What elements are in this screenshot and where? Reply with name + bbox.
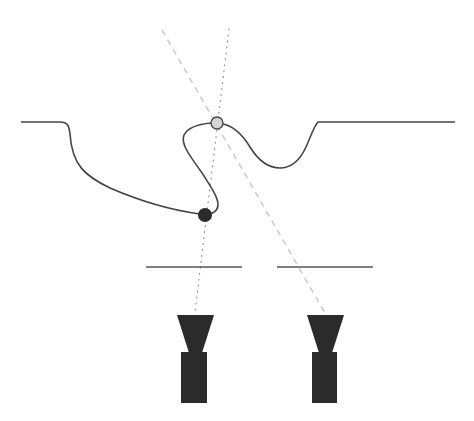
- camera-right-body: [312, 352, 337, 403]
- visible-surface-point: [198, 208, 212, 222]
- camera-left-icon: [177, 315, 214, 403]
- camera-right-lens: [307, 315, 344, 353]
- occluded-surface-point: [211, 117, 223, 129]
- stereo-camera-diagram: [0, 0, 474, 421]
- surface-profile-curve: [21, 122, 455, 214]
- camera-left-lens: [177, 315, 214, 353]
- dashed-ray-line: [162, 30, 325, 313]
- camera-left-body: [181, 352, 207, 403]
- camera-right-icon: [307, 315, 344, 403]
